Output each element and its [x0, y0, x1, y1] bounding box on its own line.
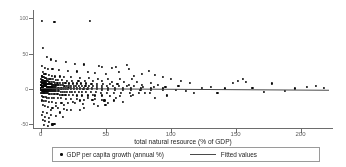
chart-legend: GDP per capita growth (annual %) Fitted …: [52, 147, 320, 162]
y-tick-label: 100: [0, 15, 28, 21]
x-axis-title: total natural resource (% of GDP): [33, 138, 333, 146]
fitted-line-icon: [190, 154, 216, 155]
y-tick-label: 0: [0, 86, 28, 92]
y-tick-label: -50: [0, 121, 28, 127]
scatter-marker-icon: [60, 153, 63, 156]
x-tick-label: 150: [231, 131, 241, 138]
legend-label-fitted: Fitted values: [221, 151, 257, 159]
legend-entry-scatter: GDP per capita growth (annual %): [60, 151, 164, 159]
x-tick-label: 0: [39, 131, 42, 138]
x-tick-label: 50: [102, 131, 109, 138]
x-axis-line: [33, 128, 333, 129]
legend-entry-fitted: Fitted values: [190, 151, 257, 159]
legend-label-scatter: GDP per capita growth (annual %): [67, 151, 164, 159]
x-tick-label: 200: [296, 131, 306, 138]
x-tick-label: 100: [166, 131, 176, 138]
y-tick-label: 50: [0, 51, 28, 57]
scatter-chart: 100500-50 050100150200 total natural res…: [0, 0, 346, 167]
